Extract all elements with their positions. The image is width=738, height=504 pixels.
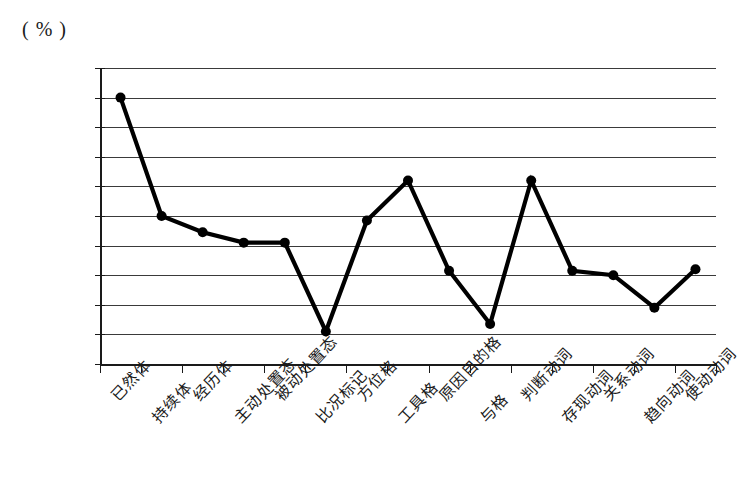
x-axis-label: 与格: [474, 387, 513, 426]
series-markers-group: [116, 93, 701, 337]
plot-area: 1009080706050403020100: [100, 68, 716, 364]
chart-figure: ( % ) 1009080706050403020100 已然体持续体经历体主动…: [0, 0, 738, 504]
data-point-marker: [280, 238, 290, 248]
data-point-marker: [526, 175, 536, 185]
data-series-line: [100, 68, 716, 364]
x-axis-label: 持续体: [146, 375, 196, 426]
unit-label: ( % ): [22, 18, 67, 41]
data-point-marker: [403, 175, 413, 185]
data-point-marker: [157, 211, 167, 221]
data-point-marker: [198, 227, 208, 237]
data-point-marker: [239, 238, 249, 248]
data-point-marker: [567, 266, 577, 276]
data-point-marker: [649, 303, 659, 313]
data-point-marker: [690, 264, 700, 274]
series-polyline: [121, 98, 696, 332]
x-axis-labels-group: 已然体持续体经历体主动处置态被动处置态比况标记方位格工具格原因目的格与格判断动词…: [100, 374, 716, 500]
data-point-marker: [444, 266, 454, 276]
data-point-marker: [485, 319, 495, 329]
data-point-marker: [362, 215, 372, 225]
data-point-marker: [608, 270, 618, 280]
data-point-marker: [116, 93, 126, 103]
x-axis-label: 工具格: [392, 375, 442, 426]
